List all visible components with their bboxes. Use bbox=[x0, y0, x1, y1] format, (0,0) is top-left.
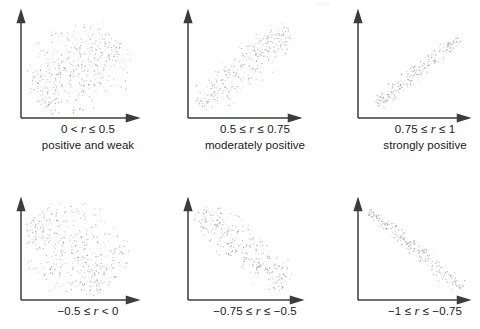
plot-area bbox=[8, 2, 168, 126]
correlation-range-label: 0.75 ≤ r ≤ 1 bbox=[345, 122, 480, 137]
panel-caption: −0.5 ≤ r < 0 bbox=[8, 304, 168, 320]
point-cloud bbox=[345, 184, 480, 308]
correlation-range-label: −0.5 ≤ r < 0 bbox=[8, 304, 168, 319]
range-prefix: 0 < bbox=[61, 123, 81, 135]
scatter-panel-strongly-negative: −1 ≤ r ≤ −0.75 bbox=[345, 184, 480, 329]
scatter-panel-strongly-positive: 0.75 ≤ r ≤ 1 strongly positive bbox=[345, 2, 480, 166]
correlation-description: moderately positive bbox=[175, 138, 335, 152]
panel-caption: −1 ≤ r ≤ −0.75 bbox=[345, 304, 480, 320]
correlation-scatterplot-figure: 0 < r ≤ 0.5 positive and weak 0.5 ≤ r ≤ … bbox=[0, 0, 480, 329]
scatter-panel-moderately-positive: 0.5 ≤ r ≤ 0.75 moderately positive bbox=[175, 2, 335, 166]
plot-area bbox=[175, 184, 335, 308]
point-cloud bbox=[175, 2, 335, 126]
panel-caption: 0 < r ≤ 0.5 positive and weak bbox=[8, 122, 168, 152]
range-suffix: < 0 bbox=[99, 305, 119, 317]
range-suffix: ≤ −0.5 bbox=[261, 305, 297, 317]
plot-area bbox=[8, 184, 168, 308]
point-cloud bbox=[8, 2, 168, 126]
scatter-panel-negative-weak: −0.5 ≤ r < 0 bbox=[8, 184, 168, 329]
panel-caption: 0.75 ≤ r ≤ 1 strongly positive bbox=[345, 122, 480, 152]
range-prefix: 0.75 ≤ bbox=[395, 123, 431, 135]
correlation-range-label: −1 ≤ r ≤ −0.75 bbox=[345, 304, 480, 319]
range-suffix: ≤ 0.5 bbox=[86, 123, 115, 135]
range-suffix: ≤ 0.75 bbox=[254, 123, 290, 135]
correlation-range-label: 0 < r ≤ 0.5 bbox=[8, 122, 168, 137]
panel-caption: 0.5 ≤ r ≤ 0.75 moderately positive bbox=[175, 122, 335, 152]
correlation-description: positive and weak bbox=[8, 138, 168, 152]
correlation-description: strongly positive bbox=[345, 138, 480, 152]
plot-area bbox=[175, 2, 335, 126]
range-prefix: −1 ≤ bbox=[388, 305, 414, 317]
plot-area bbox=[345, 2, 480, 126]
plot-area bbox=[345, 184, 480, 308]
point-cloud bbox=[175, 184, 335, 308]
scatter-panel-moderately-negative: −0.75 ≤ r ≤ −0.5 bbox=[175, 184, 335, 329]
range-prefix: −0.75 ≤ bbox=[213, 305, 256, 317]
range-suffix: ≤ −0.75 bbox=[419, 305, 462, 317]
point-cloud bbox=[8, 184, 168, 308]
scatter-panel-positive-weak: 0 < r ≤ 0.5 positive and weak bbox=[8, 2, 168, 166]
range-suffix: ≤ 1 bbox=[436, 123, 456, 135]
correlation-range-label: 0.5 ≤ r ≤ 0.75 bbox=[175, 122, 335, 137]
point-cloud bbox=[345, 2, 480, 126]
range-prefix: 0.5 ≤ bbox=[220, 123, 249, 135]
panel-caption: −0.75 ≤ r ≤ −0.5 bbox=[175, 304, 335, 320]
range-prefix: −0.5 ≤ bbox=[58, 305, 94, 317]
correlation-range-label: −0.75 ≤ r ≤ −0.5 bbox=[175, 304, 335, 319]
